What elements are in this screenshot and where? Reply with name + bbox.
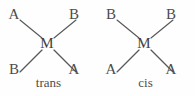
bond-top-right: [54, 20, 76, 38]
isomer-label-trans: trans: [0, 76, 97, 90]
ligand-top-left: A: [5, 7, 23, 22]
diagram-trans: A B M B A trans: [0, 0, 97, 96]
ligand-bottom-right: A: [65, 62, 83, 77]
bond-bottom-left: [117, 50, 139, 72]
center-atom: M: [135, 36, 153, 51]
center-atom: M: [38, 36, 56, 51]
ligand-top-right: B: [65, 7, 83, 22]
isomer-figure: A B M B A trans B B M A A cis: [0, 0, 195, 96]
bond-top-right: [151, 20, 173, 38]
ligand-bottom-right: A: [162, 62, 180, 77]
ligand-bottom-left: A: [102, 62, 120, 77]
ligand-bottom-left: B: [5, 62, 23, 77]
ligand-top-left: B: [102, 7, 120, 22]
isomer-label-cis: cis: [97, 76, 194, 90]
bond-bottom-left: [20, 50, 42, 72]
ligand-top-right: B: [162, 7, 180, 22]
diagram-cis: B B M A A cis: [97, 0, 194, 96]
